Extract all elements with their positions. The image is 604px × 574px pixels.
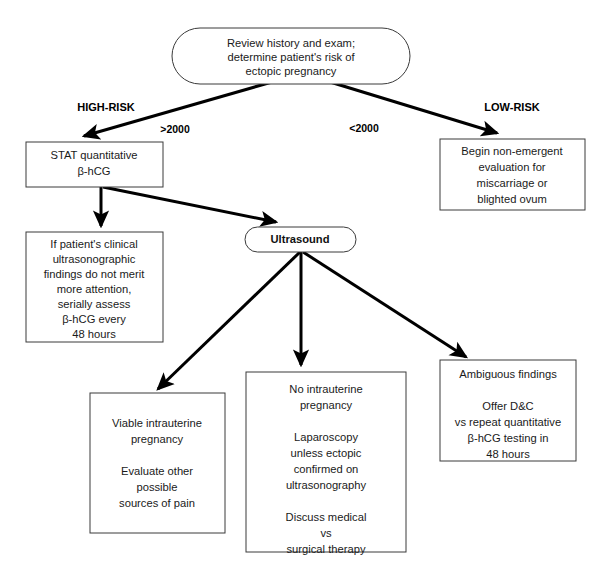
node-line: vs	[320, 527, 332, 539]
node-line: miscarriage or	[477, 177, 548, 189]
node-line: unless ectopic	[291, 447, 362, 459]
label-high-risk: HIGH-RISK	[77, 101, 135, 113]
node-line: 48 hours	[72, 328, 116, 340]
node-line: vs repeat quantitative	[455, 416, 561, 428]
node-line: Viable intrauterine	[112, 417, 202, 429]
node-line: Laparoscopy	[294, 431, 358, 443]
node-line: Review history and exam;	[227, 37, 355, 49]
node-line: determine patient's risk of	[227, 51, 355, 63]
node-line: ectopic pregnancy	[246, 65, 337, 77]
node-stat-quantitative-hcg[interactable]: STAT quantitative β-hCG	[26, 142, 163, 187]
node-review-history[interactable]: Review history and exam; determine patie…	[172, 28, 410, 84]
node-line: more attention,	[57, 283, 132, 295]
node-line: confirmed on	[294, 463, 359, 475]
node-line: evaluation for	[478, 161, 545, 173]
flowchart-canvas: >2000 <2000 HIGH-RISK LOW-RISK Review hi…	[0, 0, 604, 574]
node-line: Ultrasound	[270, 233, 329, 245]
node-line: pregnancy	[131, 433, 184, 445]
node-line: Discuss medical	[286, 511, 367, 523]
node-line: serially assess	[58, 298, 131, 310]
node-line: pregnancy	[300, 399, 353, 411]
node-line: 48 hours	[486, 448, 530, 460]
node-line: ultrasonography	[286, 479, 367, 491]
node-line: blighted ovum	[477, 193, 547, 205]
node-line: STAT quantitative	[50, 149, 137, 161]
node-line: Begin non-emergent	[461, 145, 563, 157]
node-serially-assess-hcg[interactable]: If patient's clinical ultrasonographic f…	[26, 232, 163, 342]
node-ambiguous-findings[interactable]: Ambiguous findings Offer D&C vs repeat q…	[440, 360, 576, 461]
node-begin-non-emergent-evaluation[interactable]: Begin non-emergent evaluation for miscar…	[440, 139, 585, 210]
edge-stat-to-ultrasound	[103, 187, 276, 222]
node-no-intrauterine-pregnancy[interactable]: No intrauterine pregnancy Laparoscopy un…	[246, 372, 406, 555]
node-line: ultrasonographic	[53, 253, 136, 265]
node-viable-intrauterine-pregnancy[interactable]: Viable intrauterine pregnancy Evaluate o…	[90, 393, 225, 533]
node-line: Ambiguous findings	[459, 368, 557, 380]
edge-ultrasound-to-viable	[158, 252, 300, 389]
node-ultrasound[interactable]: Ultrasound	[245, 227, 356, 252]
node-line: No intrauterine	[289, 383, 362, 395]
edge-ultrasound-to-ambiguous	[303, 252, 466, 357]
node-line: findings do not merit	[44, 268, 146, 280]
node-line: possible	[136, 481, 177, 493]
node-line: β-hCG	[77, 165, 110, 177]
node-line: β-hCG testing in	[467, 432, 548, 444]
edge-label-gt-2000: >2000	[160, 123, 190, 135]
node-line: Offer D&C	[482, 400, 533, 412]
node-line: Evaluate other	[121, 465, 193, 477]
label-low-risk: LOW-RISK	[484, 101, 539, 113]
node-line: If patient's clinical	[50, 238, 137, 250]
node-line: surgical therapy	[287, 543, 366, 555]
node-line: sources of pain	[119, 497, 195, 509]
node-line: β-hCG every	[62, 313, 126, 325]
edge-label-lt-2000: <2000	[349, 122, 379, 134]
